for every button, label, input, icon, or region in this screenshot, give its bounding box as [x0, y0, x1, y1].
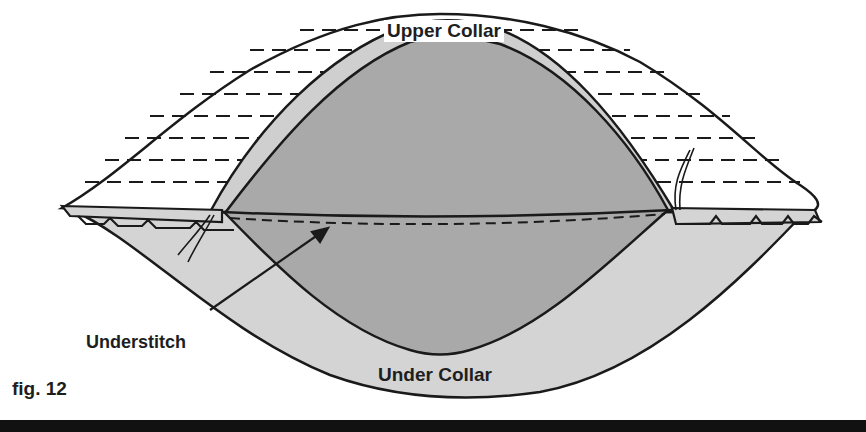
understitch-label: Understitch [86, 332, 186, 353]
upper-collar-label: Upper Collar [384, 20, 504, 42]
figure-caption: fig. 12 [12, 378, 67, 400]
bottom-rule [0, 420, 866, 432]
under-collar-label: Under Collar [378, 364, 492, 386]
right-seam-allowance [672, 208, 822, 224]
